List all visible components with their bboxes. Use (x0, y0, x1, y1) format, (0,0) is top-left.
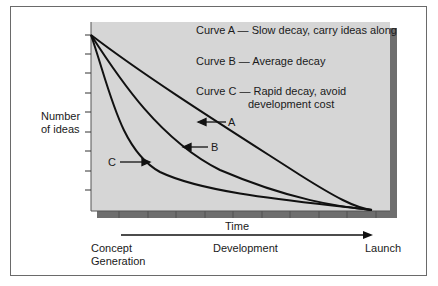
legend-curve-c-line1: Curve C — Rapid decay, avoid (196, 85, 346, 98)
stage-development: Development (213, 242, 278, 255)
plot-shadow-right (390, 28, 397, 218)
stage-concept-line1: Concept (91, 242, 132, 255)
y-ticks (85, 35, 91, 190)
legend-curve-a: Curve A — Slow decay, carry ideas along (196, 24, 397, 37)
y-axis-label-line2: of ideas (41, 123, 80, 136)
time-arrow-head-icon (363, 231, 373, 239)
stage-concept-line2: Generation (91, 255, 145, 268)
curve-label-a: A (228, 116, 235, 129)
stage-launch: Launch (365, 242, 401, 255)
plot-area (91, 22, 390, 211)
legend-curve-c-line2: development cost (248, 98, 334, 111)
x-axis-time-label: Time (225, 220, 249, 233)
curve-label-c: C (108, 156, 116, 169)
legend-curve-b: Curve B — Average decay (196, 55, 325, 68)
y-axis-label-line1: Number (41, 110, 80, 123)
curve-label-b: B (211, 141, 218, 154)
plot-shadow-bottom (97, 211, 397, 218)
